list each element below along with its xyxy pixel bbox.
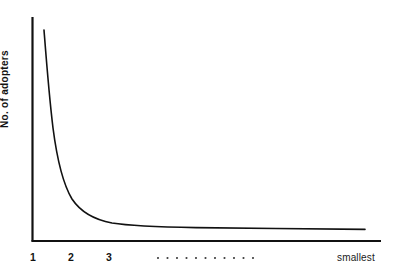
adopters-distribution-figure: No. of adopters 1 2 3 smallest xyxy=(0,0,399,276)
x-axis-ellipsis-dots xyxy=(157,257,254,259)
x-tick-label-2: 2 xyxy=(68,252,74,263)
x-tick-label-3: 3 xyxy=(106,252,112,263)
adopters-decay-curve xyxy=(44,30,365,229)
x-tick-label-1: 1 xyxy=(30,252,36,263)
x-axis-end-label-smallest: smallest xyxy=(337,253,375,263)
chart-plot-area xyxy=(0,0,399,276)
y-axis-label: No. of adopters xyxy=(0,38,10,128)
